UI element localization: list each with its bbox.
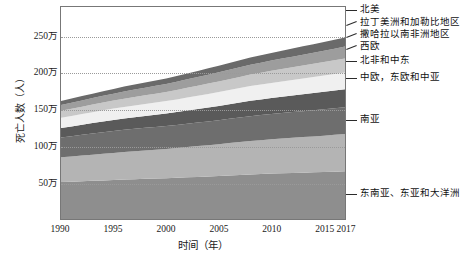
y-tick-label: 200万 <box>2 67 58 77</box>
legend-connector-line-icon <box>346 44 357 49</box>
x-axis-label: 时间（年） <box>60 240 346 252</box>
legend-item-label: 北美 <box>360 4 380 15</box>
y-tick-label: 250万 <box>2 31 58 41</box>
x-tick-label: 2015 <box>315 224 334 235</box>
legend-item[interactable]: 东南亚、东亚和大洋洲 <box>346 188 460 199</box>
legend-connector-line-icon <box>346 32 357 37</box>
gridline-200万 <box>61 73 345 74</box>
legend-item[interactable]: 南亚 <box>346 114 380 125</box>
legend-connector-line-icon <box>346 61 357 62</box>
legend-connector-line-icon <box>346 78 357 79</box>
x-tick-label: 2010 <box>262 224 281 235</box>
x-tick-label: 2000 <box>156 224 175 235</box>
legend-item[interactable]: 西欧 <box>346 41 380 52</box>
legend-item[interactable]: 北非和中东 <box>346 55 410 66</box>
gridline-250万 <box>61 37 345 38</box>
legend-connector-line-icon <box>346 194 357 195</box>
gridline-50万 <box>61 184 345 185</box>
x-tick-label: 2005 <box>209 224 228 235</box>
legend-item-label: 撒哈拉以南非洲地区 <box>360 29 450 40</box>
legend-item[interactable]: 拉丁美洲和加勒比地区 <box>346 17 460 28</box>
gridline-150万 <box>61 110 345 111</box>
y-axis: 死亡人数（人） 50万100万150万200万250万 <box>0 6 58 220</box>
y-tick-label: 100万 <box>2 141 58 151</box>
stacked-area-series <box>61 7 345 219</box>
y-tick-label: 50万 <box>2 178 58 188</box>
legend: 北美拉丁美洲和加勒比地区撒哈拉以南非洲地区西欧北非和中东中欧，东欧和中亚南亚东南… <box>346 0 473 272</box>
gridline-100万 <box>61 147 345 148</box>
x-axis: 1990199520002005201020152017 <box>60 224 346 238</box>
legend-item[interactable]: 撒哈拉以南非洲地区 <box>346 29 450 40</box>
legend-item[interactable]: 北美 <box>346 4 380 15</box>
legend-item-label: 中欧，东欧和中亚 <box>360 72 440 83</box>
legend-item-label: 西欧 <box>360 41 380 52</box>
x-tick-label: 1995 <box>103 224 122 235</box>
legend-connector-line-icon <box>346 120 357 121</box>
legend-item-label: 北非和中东 <box>360 55 410 66</box>
legend-item-label: 南亚 <box>360 114 380 125</box>
y-tick-label: 150万 <box>2 104 58 114</box>
legend-connector-line-icon <box>346 10 357 11</box>
plot-area <box>60 6 346 220</box>
chart-root: 死亡人数（人） 50万100万150万200万250万 199019952000… <box>0 0 473 272</box>
legend-item-label: 东南亚、东亚和大洋洲 <box>360 188 460 199</box>
legend-item-label: 拉丁美洲和加勒比地区 <box>360 17 460 28</box>
legend-connector-line-icon <box>346 20 357 25</box>
legend-item[interactable]: 中欧，东欧和中亚 <box>346 72 440 83</box>
x-tick-label: 1990 <box>51 224 70 235</box>
